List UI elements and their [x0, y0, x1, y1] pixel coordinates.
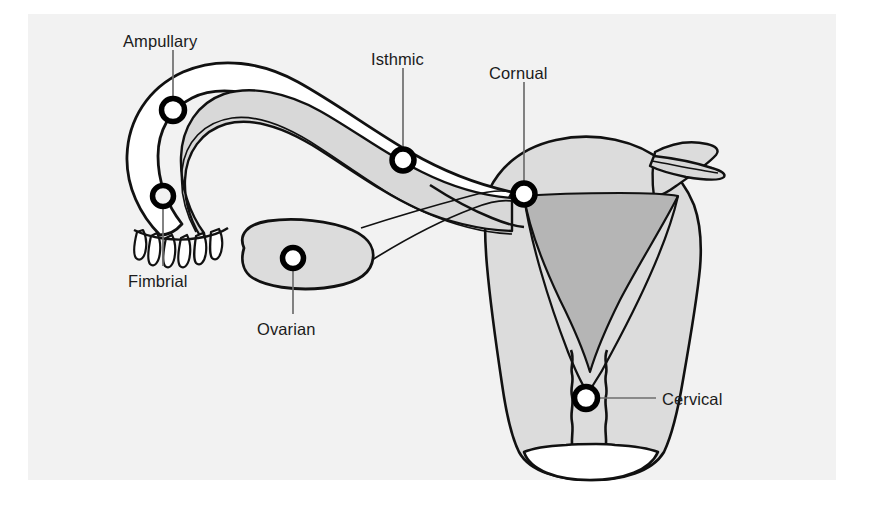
marker-isthmic[interactable] [392, 149, 414, 171]
marker-cervical[interactable] [575, 387, 598, 410]
vaginal-vault [524, 444, 658, 480]
marker-fimbrial[interactable] [153, 186, 174, 207]
diagram-page: Ampullary Fimbrial Ovarian Isthmic Cornu… [0, 0, 870, 506]
marker-ovarian[interactable] [283, 248, 304, 269]
ovary-shape [242, 219, 373, 289]
marker-cornual[interactable] [513, 183, 535, 205]
marker-ampullary[interactable] [162, 99, 185, 122]
label-isthmic: Isthmic [371, 50, 424, 69]
label-ovarian: Ovarian [257, 320, 315, 339]
label-ampullary: Ampullary [123, 32, 197, 51]
label-cornual: Cornual [489, 64, 547, 83]
anatomy-illustration [0, 0, 870, 506]
label-fimbrial: Fimbrial [128, 272, 187, 291]
label-cervical: Cervical [662, 390, 722, 409]
